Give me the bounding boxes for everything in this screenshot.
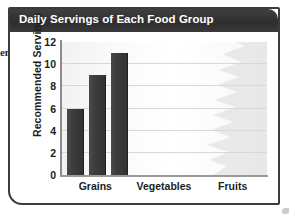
x-axis-label-grains: Grains <box>79 180 112 192</box>
bar-grains-3 <box>111 53 128 175</box>
y-axis-tick-label: 12 <box>14 36 56 48</box>
bar-grains-2 <box>89 75 106 175</box>
chart-title-bar: Daily Servings of Each Food Group <box>10 9 278 32</box>
gridline <box>61 63 267 64</box>
x-axis-category-labels: GrainsVegetablesFruits <box>61 180 267 200</box>
scan-ragged-shadow <box>183 42 267 175</box>
x-axis-label-fruits: Fruits <box>218 180 247 192</box>
plot-area <box>61 42 267 175</box>
bar-grains-1 <box>67 109 84 176</box>
chart-body: Recommended Servings 024681012 GrainsVeg… <box>12 34 276 203</box>
y-axis-tick-label: 8 <box>14 80 56 92</box>
y-axis-tick-label: 4 <box>14 125 56 137</box>
scanned-page-background: en Daily Servings of Each Food Group Rec… <box>0 0 291 216</box>
y-axis-line <box>60 40 62 176</box>
y-axis-tick-labels: 024681012 <box>12 34 56 203</box>
x-axis-label-vegetables: Vegetables <box>137 180 192 192</box>
y-axis-tick-label: 6 <box>14 103 56 115</box>
chart-title: Daily Servings of Each Food Group <box>19 13 214 25</box>
x-axis-line <box>60 175 268 177</box>
y-axis-tick-label: 2 <box>14 147 56 159</box>
scan-artifact-speck <box>282 208 289 214</box>
y-axis-tick-label: 10 <box>14 58 56 70</box>
y-axis-tick-label: 0 <box>14 169 56 181</box>
